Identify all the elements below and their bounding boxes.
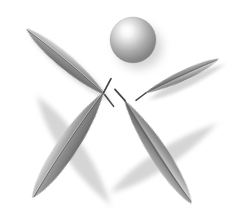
leaf-stem	[115, 88, 125, 102]
leaf-upper-left	[22, 23, 121, 109]
leaf-stem	[102, 79, 112, 93]
emblem-svg	[0, 0, 227, 224]
logo-artwork-canvas	[0, 0, 227, 224]
leaf-stem	[135, 93, 147, 100]
leaf-lower-left	[24, 74, 121, 204]
sphere	[110, 17, 156, 63]
